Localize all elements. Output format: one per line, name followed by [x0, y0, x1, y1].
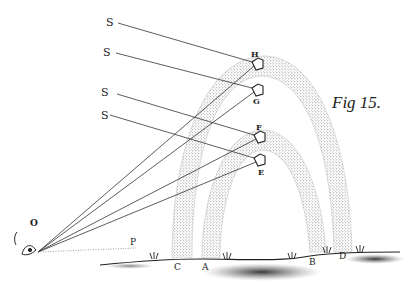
inner-bow-band	[202, 130, 326, 258]
label-b: B	[309, 257, 316, 267]
sun-ray-h	[118, 23, 252, 62]
label-d: D	[339, 251, 346, 261]
drop-g-icon	[252, 84, 263, 96]
eye-icon	[15, 232, 36, 255]
label-g: G	[253, 96, 260, 106]
sun-rays	[110, 23, 254, 158]
sun-ray-f	[117, 94, 254, 135]
rainbow-diagram: S S S S H G F E O P C A B D Fig 15.	[0, 0, 416, 286]
label-e: E	[258, 167, 264, 177]
label-s-1: S	[106, 16, 114, 29]
label-s-4: S	[101, 109, 109, 122]
ground	[100, 245, 405, 281]
label-s-2: S	[103, 46, 111, 59]
eye-to-horizon-line	[38, 248, 136, 252]
label-f: F	[256, 122, 262, 132]
label-a: A	[201, 262, 209, 272]
label-c: C	[174, 262, 181, 272]
figure-caption: Fig 15.	[331, 93, 381, 112]
label-s-3: S	[101, 86, 109, 99]
label-p: P	[130, 237, 136, 247]
drop-e-icon	[254, 154, 265, 166]
label-h: H	[251, 49, 259, 59]
label-o: O	[30, 218, 38, 228]
